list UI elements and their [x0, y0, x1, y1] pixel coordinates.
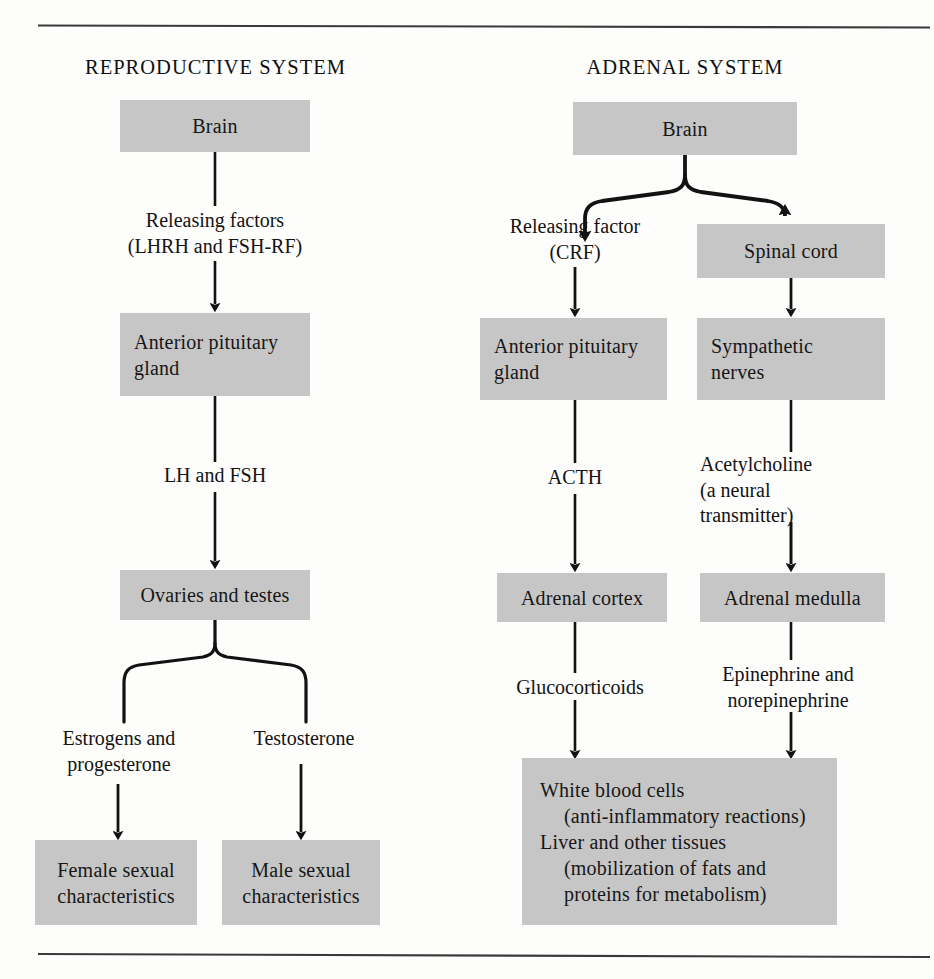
- target-line-4: (mobilization of fats and: [540, 855, 766, 881]
- label-line-2: (LHRH and FSH-RF): [95, 234, 335, 260]
- label-line-1: Releasing factors: [95, 208, 335, 234]
- node-adrenal-brain[interactable]: Brain: [573, 102, 797, 155]
- label-line-1: Acetylcholine: [700, 452, 890, 478]
- node-label-line-2: gland: [494, 359, 539, 385]
- node-female-sexual-characteristics[interactable]: Female sexual characteristics: [35, 840, 197, 925]
- node-label-line-1: Female sexual: [57, 857, 175, 883]
- label-epinephrine-and-norepinephrine: Epinephrine and norepinephrine: [688, 662, 888, 713]
- node-label-line-2: characteristics: [57, 883, 174, 909]
- label-line-2: (CRF): [485, 240, 665, 266]
- top-rule: [38, 26, 930, 28]
- target-line-5: proteins for metabolism): [540, 881, 767, 907]
- node-label: Brain: [192, 113, 237, 139]
- label-line-1: Releasing factor: [485, 214, 665, 240]
- diagram-page: REPRODUCTIVE SYSTEM ADRENAL SYSTEM Brain…: [0, 0, 934, 979]
- label-releasing-factor-crf: Releasing factor (CRF): [485, 214, 665, 265]
- target-line-1: White blood cells: [540, 777, 684, 803]
- node-label-line-1: Anterior pituitary: [494, 333, 638, 359]
- label-line-2: progesterone: [34, 752, 204, 778]
- node-reproductive-anterior-pituitary-gland[interactable]: Anterior pituitary gland: [120, 313, 310, 396]
- label-lh-and-fsh: LH and FSH: [125, 463, 305, 489]
- label-acetylcholine: Acetylcholine (a neural transmitter): [700, 452, 890, 529]
- node-label: Adrenal cortex: [521, 585, 643, 611]
- node-label-line-2: nerves: [711, 359, 764, 385]
- fork-ovaries: [124, 620, 215, 722]
- node-label-line-2: characteristics: [242, 883, 359, 909]
- node-adrenal-medulla[interactable]: Adrenal medulla: [700, 573, 885, 622]
- fork-brain-adrenal-right: [685, 175, 785, 216]
- node-spinal-cord[interactable]: Spinal cord: [697, 224, 885, 278]
- node-label: Spinal cord: [744, 238, 838, 264]
- node-male-sexual-characteristics[interactable]: Male sexual characteristics: [222, 840, 380, 925]
- node-adrenal-anterior-pituitary-gland[interactable]: Anterior pituitary gland: [480, 318, 667, 400]
- label-acth: ACTH: [495, 465, 655, 491]
- node-reproductive-brain[interactable]: Brain: [120, 100, 310, 152]
- node-label-line-1: Sympathetic: [711, 333, 813, 359]
- label-line-3: transmitter): [700, 503, 890, 529]
- node-label-line-1: Male sexual: [251, 857, 350, 883]
- fork-ovaries-right: [215, 643, 306, 722]
- node-label: Adrenal medulla: [724, 585, 861, 611]
- bottom-rule: [38, 954, 930, 957]
- target-line-2: (anti-inflammatory reactions): [540, 803, 806, 829]
- label-releasing-factors: Releasing factors (LHRH and FSH-RF): [95, 208, 335, 259]
- node-sympathetic-nerves[interactable]: Sympathetic nerves: [697, 318, 885, 400]
- label-glucocorticoids: Glucocorticoids: [485, 675, 675, 701]
- heading-reproductive-system: REPRODUCTIVE SYSTEM: [85, 56, 345, 79]
- label-testosterone: Testosterone: [224, 726, 384, 752]
- label-line-2: (a neural: [700, 478, 890, 504]
- heading-adrenal-system: ADRENAL SYSTEM: [570, 56, 800, 79]
- node-ovaries-and-testes[interactable]: Ovaries and testes: [120, 570, 310, 620]
- node-label-line-2: gland: [134, 355, 179, 381]
- node-label: Ovaries and testes: [140, 582, 289, 608]
- node-label: Brain: [662, 116, 707, 142]
- label-line-2: norepinephrine: [688, 688, 888, 714]
- node-label-line-1: Anterior pituitary: [134, 329, 278, 355]
- label-estrogens-and-progesterone: Estrogens and progesterone: [34, 726, 204, 777]
- label-line-1: Epinephrine and: [688, 662, 888, 688]
- node-adrenal-cortex[interactable]: Adrenal cortex: [497, 573, 667, 622]
- target-line-3: Liver and other tissues: [540, 829, 726, 855]
- node-target-tissues[interactable]: White blood cells (anti-inflammatory rea…: [522, 758, 837, 925]
- label-line-1: Estrogens and: [34, 726, 204, 752]
